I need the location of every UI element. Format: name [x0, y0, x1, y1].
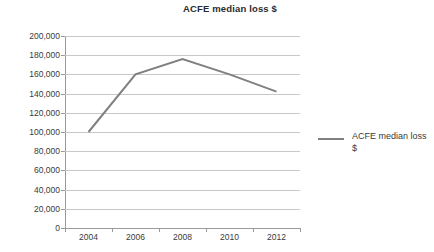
y-tick-label: 200,000 — [2, 32, 60, 41]
legend-swatch-icon — [318, 138, 344, 140]
chart-container: ACFE median loss $ 200,000180,000160,000… — [0, 0, 434, 252]
y-tick-label: 180,000 — [2, 51, 60, 60]
x-tick-mark — [112, 228, 113, 232]
x-tick-mark — [253, 228, 254, 232]
x-tick-mark — [206, 228, 207, 232]
chart-title: ACFE median loss $ — [0, 3, 434, 14]
y-tick-label: 140,000 — [2, 90, 60, 99]
x-tick-label: 2006 — [113, 233, 159, 242]
y-tick-label: 0 — [2, 224, 60, 233]
y-tick-label: 60,000 — [2, 166, 60, 175]
y-tick-label: 160,000 — [2, 70, 60, 79]
x-tick-mark — [65, 228, 66, 232]
y-tick-label: 20,000 — [2, 205, 60, 214]
x-tick-mark — [159, 228, 160, 232]
y-tick-label: 100,000 — [2, 128, 60, 137]
x-tick-label: 2010 — [207, 233, 253, 242]
x-axis-line — [65, 228, 301, 229]
y-tick-label: 80,000 — [2, 147, 60, 156]
y-tick-label: 120,000 — [2, 109, 60, 118]
legend-item-label: ACFE median loss $ — [352, 131, 432, 154]
x-tick-label: 2008 — [160, 233, 206, 242]
series-line-acfe-median-loss — [89, 59, 277, 132]
y-tick-label: 40,000 — [2, 186, 60, 195]
x-tick-label: 2004 — [66, 233, 112, 242]
series-plot — [65, 36, 300, 228]
x-tick-mark — [300, 228, 301, 232]
x-tick-label: 2012 — [254, 233, 300, 242]
